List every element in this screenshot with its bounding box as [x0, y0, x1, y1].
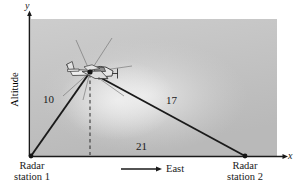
station-1-line-1: Radar — [2, 160, 62, 171]
vertical-axis-title: Altitude — [9, 60, 20, 120]
station-1-vertex — [29, 154, 34, 159]
right-leg-length-label: 17 — [166, 95, 177, 107]
left-leg-length-label: 10 — [43, 94, 54, 106]
station-2-line-2: station 2 — [215, 171, 275, 182]
station-1-line-2: station 1 — [2, 171, 62, 182]
x-axis-label: x — [288, 151, 292, 162]
east-direction-label: East — [166, 163, 184, 174]
east-arrow-icon — [121, 167, 162, 172]
base-length-label: 21 — [136, 141, 147, 153]
station-1-label: Radar station 1 — [2, 160, 62, 182]
diagram-canvas: y x Altitude 10 17 21 East Radar station… — [0, 0, 296, 190]
station-2-vertex — [243, 154, 248, 159]
station-2-label: Radar station 2 — [215, 160, 275, 182]
y-axis-label: y — [25, 1, 29, 12]
station-2-line-1: Radar — [215, 160, 275, 171]
